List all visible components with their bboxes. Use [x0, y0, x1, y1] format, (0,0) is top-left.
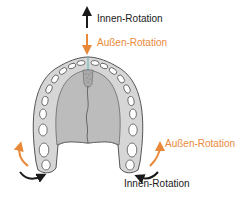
left-inner-rotation-arrow: [20, 172, 42, 179]
upper-jaw-arch: [33, 57, 143, 173]
dental-arch-diagram: [0, 0, 252, 202]
top-outer-rotation-label: Außen-Rotation: [97, 37, 167, 49]
right-outer-rotation-arrow: [150, 146, 160, 166]
right-outer-rotation-label: Außen-Rotation: [165, 138, 235, 150]
bottom-inner-rotation-label: Innen-Rotation: [124, 178, 190, 190]
left-outer-rotation-arrow: [19, 146, 28, 166]
top-inner-rotation-label: Innen-Rotation: [97, 13, 163, 25]
